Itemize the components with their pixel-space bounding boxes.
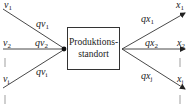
- output-flow-label-1: qx1: [141, 14, 154, 26]
- node-label-line1: Produktions-: [69, 37, 118, 49]
- output-arrow-j: [122, 49, 185, 89]
- input-source-label-2: v2: [3, 38, 11, 50]
- input-flow-label-i: qvi: [36, 67, 47, 79]
- input-flow-label-1: qv1: [36, 19, 49, 31]
- production-site-diagram: Produktions- standort v1 v2 vi qv1 qv2 q…: [0, 0, 189, 104]
- input-convergence-point: [62, 47, 67, 52]
- input-source-label-i: vi: [3, 74, 9, 86]
- node-label-line2: standort: [78, 49, 109, 61]
- input-flow-label-2: qv2: [35, 38, 48, 50]
- production-site-node: Produktions- standort: [67, 27, 120, 70]
- output-flow-label-j: qxj: [141, 71, 152, 83]
- output-target-label-1: x1: [176, 0, 184, 12]
- output-flow-label-2: qx2: [145, 38, 158, 50]
- output-target-label-2: x2: [177, 38, 185, 50]
- input-line-i: [3, 49, 65, 88]
- input-source-label-1: v1: [4, 0, 12, 12]
- output-target-label-j: xj: [177, 74, 183, 86]
- input-line-1: [3, 9, 65, 49]
